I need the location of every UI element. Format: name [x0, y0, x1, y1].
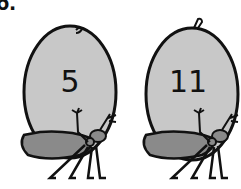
ants-illustration: 5 11: [0, 0, 241, 189]
seed-right: 11: [144, 19, 238, 178]
seed-left: 5: [22, 26, 116, 178]
seed-number-right: 11: [169, 64, 207, 99]
seed-number-left: 5: [60, 64, 79, 99]
